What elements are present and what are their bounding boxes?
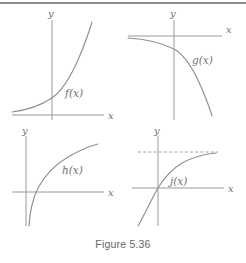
function-label-g: g(x) bbox=[192, 54, 213, 66]
graph-panel-h: y x h(x) bbox=[4, 126, 122, 236]
figure-caption: Figure 5.36 bbox=[0, 238, 246, 250]
x-axis-label-g: x bbox=[226, 24, 232, 35]
y-axis-label-j: y bbox=[153, 125, 160, 136]
top-divider-rule bbox=[0, 2, 246, 4]
graph-panel-g: y x g(x) bbox=[124, 8, 242, 126]
x-axis-label-j: x bbox=[228, 183, 234, 194]
graph-g-svg: y x g(x) bbox=[124, 8, 242, 126]
curve-g bbox=[128, 38, 212, 116]
function-label-j: j(x) bbox=[168, 175, 187, 187]
function-label-f: f(x) bbox=[64, 87, 83, 99]
graph-panel-grid: y x f(x) y x g(x) y x bbox=[0, 8, 246, 236]
graph-panel-f: y x f(x) bbox=[4, 8, 122, 126]
function-label-h: h(x) bbox=[62, 164, 83, 176]
graph-f-svg: y x f(x) bbox=[4, 8, 122, 126]
graph-panel-j: y x j(x) bbox=[124, 126, 242, 236]
y-axis-label-f: y bbox=[47, 8, 54, 19]
graph-j-svg: y x j(x) bbox=[124, 126, 242, 236]
x-axis-label-h: x bbox=[108, 187, 114, 198]
x-axis-label-f: x bbox=[108, 110, 114, 121]
graph-h-svg: y x h(x) bbox=[4, 126, 122, 236]
y-axis-label-g: y bbox=[169, 8, 176, 19]
y-axis-label-h: y bbox=[21, 125, 28, 136]
figure-container: y x f(x) y x g(x) y x bbox=[0, 0, 246, 263]
curve-j bbox=[138, 153, 216, 226]
curve-h bbox=[29, 144, 98, 226]
